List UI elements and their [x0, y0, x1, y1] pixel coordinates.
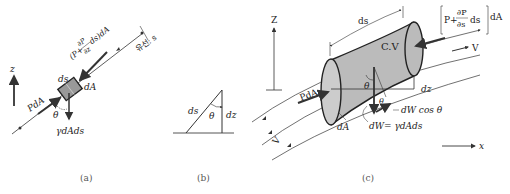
cv-label: C.V: [381, 41, 399, 52]
theta-label-c1: θ: [364, 81, 370, 91]
dz-label-b: dz: [226, 110, 237, 120]
cv-end-cap: [405, 22, 423, 76]
dA-label: dA: [84, 82, 97, 92]
weight-label: γdAds: [56, 126, 84, 136]
theta-arc-b: [211, 104, 222, 107]
theta-arc: [57, 106, 67, 110]
dz-label-c: dz: [421, 84, 432, 94]
v-label-bottom: V: [270, 135, 283, 147]
theta-label-b: θ: [209, 111, 215, 121]
pda-label-c: PdA: [298, 87, 319, 103]
svg-text:∂z: ∂z: [82, 45, 93, 56]
flow-arrow-icon: [262, 116, 266, 120]
upstream-pressure-arrow: [80, 52, 107, 80]
ds-label-c: ds: [358, 16, 369, 26]
svg-text:∂s: ∂s: [457, 20, 465, 29]
panel-a: z 유선: s PdA (P+ ∂P ∂z ds)dA ds dA θ: [9, 21, 158, 183]
diagram: z 유선: s PdA (P+ ∂P ∂z ds)dA ds dA θ: [0, 0, 510, 194]
v-arrow-top: [452, 47, 468, 51]
svg-text:ds)dA: ds)dA: [87, 25, 111, 47]
caption-c: (c): [362, 173, 374, 183]
z-axis-label: z: [9, 64, 15, 74]
streamline-arrow-icon: [116, 47, 120, 51]
downstream-force-label: P+ ∂P ∂s ds dA: [441, 6, 503, 34]
streamline-label: 유선: s: [134, 33, 158, 54]
ds-label-b: ds: [188, 106, 199, 116]
svg-text:dA: dA: [490, 12, 503, 22]
caption-a: (a): [80, 173, 92, 183]
svg-text:(P+: (P+: [68, 45, 86, 61]
svg-text:ds: ds: [470, 15, 481, 25]
upstream-force-label: (P+ ∂P ∂z ds)dA: [65, 21, 114, 65]
panel-b: ds θ dz (b): [173, 90, 237, 183]
dw-label: dW= γdAds: [369, 121, 423, 131]
dwcos-label: dW cos θ: [401, 105, 443, 115]
svg-text:P+: P+: [444, 15, 458, 25]
dA-label-c: dA: [337, 122, 350, 132]
cv-inlet-face: [321, 59, 341, 125]
svg-text:∂P: ∂P: [457, 8, 467, 17]
z-axis-label-c: Z: [271, 15, 277, 25]
ds-label: ds: [58, 74, 69, 84]
flow-arrow-icon: [268, 130, 272, 134]
streamline-dot: [19, 127, 22, 130]
v-label-top: V: [471, 43, 479, 53]
caption-b: (b): [197, 173, 210, 183]
streamline-dot: [141, 32, 144, 35]
flow-arrow-icon: [287, 143, 291, 147]
x-axis-label: x: [479, 141, 484, 151]
theta-label-c2: θ: [379, 97, 384, 106]
figure-canvas: z 유선: s PdA (P+ ∂P ∂z ds)dA ds dA θ: [0, 0, 510, 194]
theta-label: θ: [53, 110, 59, 120]
panel-c: Z ds C.V P+ ∂P ∂s ds dA: [252, 6, 503, 183]
